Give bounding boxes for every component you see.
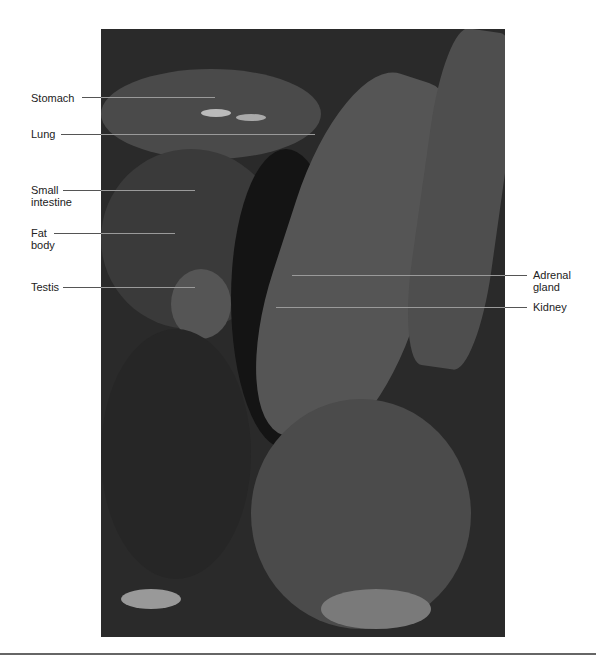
bottom-highlight	[121, 589, 181, 609]
page-rule	[0, 653, 596, 655]
label-text: Stomach	[31, 92, 74, 104]
label-text: Fat body	[31, 227, 55, 251]
label-text: Small intestine	[31, 184, 72, 208]
leader-line	[101, 134, 315, 135]
label-text: Testis	[31, 281, 59, 293]
label-text: Adrenal gland	[533, 269, 571, 293]
label-text: Kidney	[533, 301, 567, 313]
bottom-right-highlight	[321, 589, 431, 629]
leader-line	[61, 134, 101, 135]
leader-line	[82, 97, 101, 98]
leader-line	[63, 287, 101, 288]
lower-left-dark	[101, 329, 251, 579]
stomach-highlight-2	[236, 114, 266, 121]
leader-line	[54, 233, 101, 234]
leader-line	[276, 307, 505, 308]
label-text: Lung	[31, 128, 55, 140]
leader-line	[101, 190, 195, 191]
leader-line	[292, 275, 505, 276]
dissection-photo	[101, 29, 505, 637]
leader-line	[101, 233, 175, 234]
leader-line	[505, 275, 527, 276]
leader-line	[505, 307, 527, 308]
leader-line	[63, 190, 101, 191]
leader-line	[101, 97, 215, 98]
leader-line	[101, 287, 195, 288]
stomach-highlight	[201, 109, 231, 117]
